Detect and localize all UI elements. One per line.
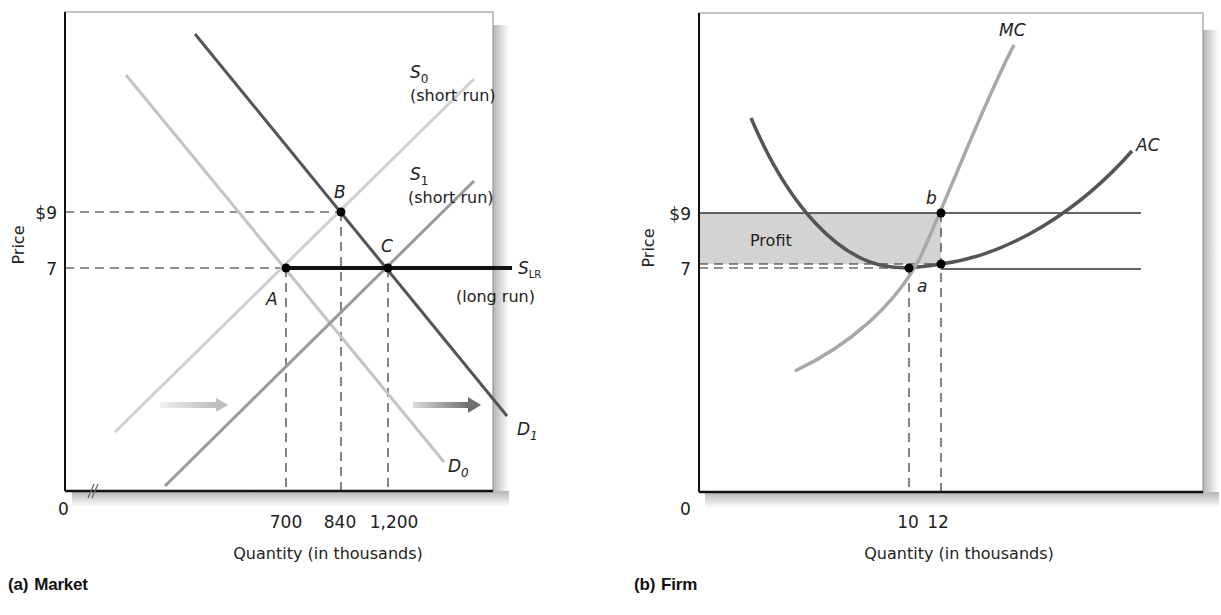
panel-a-caption: (a)Market <box>8 575 88 595</box>
slr-label: SLR <box>518 258 541 280</box>
x-tick-10: 10 <box>897 512 919 532</box>
x-axis-title: Quantity (in thousands) <box>233 544 423 563</box>
y-tick-7: 7 <box>46 259 57 279</box>
point-b-dot <box>337 208 346 217</box>
frame-shadow-bottom <box>705 492 1219 508</box>
point-c-dot <box>384 264 393 273</box>
y-tick-9: $9 <box>669 204 691 224</box>
s1-note: (short run) <box>408 188 494 207</box>
x-axis-title: Quantity (in thousands) <box>864 544 1054 563</box>
panel-a-tag: (a) <box>8 575 28 594</box>
point-a-dot <box>905 264 914 273</box>
point-b-dot <box>937 209 946 218</box>
panel-b-title: Firm <box>661 575 697 594</box>
frame-shadow-right <box>1203 30 1219 508</box>
x-tick-12: 12 <box>927 512 949 532</box>
point-a-label: a <box>917 276 927 296</box>
point-b-label: b <box>926 188 937 208</box>
d1-label: D1 <box>517 419 538 443</box>
y-axis-title: Price <box>639 228 658 267</box>
slr-note: (long run) <box>456 287 535 306</box>
point-a-dot <box>282 264 291 273</box>
profit-label: Profit <box>750 231 792 250</box>
origin-label: 0 <box>680 499 691 519</box>
x-tick-700: 700 <box>270 512 302 532</box>
mc-label: MC <box>999 20 1026 40</box>
panel-a-title: Market <box>34 575 88 594</box>
panel-b-caption: (b)Firm <box>634 575 697 595</box>
frame-shadow-bottom <box>72 491 509 507</box>
point-a-label: A <box>265 289 278 309</box>
ac-at-q12-dot <box>937 260 946 269</box>
origin-label: 0 <box>58 499 69 519</box>
y-tick-7: 7 <box>680 259 691 279</box>
x-tick-1200: 1,200 <box>370 512 419 532</box>
profit-region <box>700 213 941 264</box>
x-tick-840: 840 <box>324 512 356 532</box>
panel-b-tag: (b) <box>634 575 655 594</box>
market-chart: A B C S0 (short run) S1 (short run) SLR … <box>0 0 610 615</box>
s0-note: (short run) <box>410 86 496 105</box>
point-c-label: C <box>381 236 393 256</box>
firm-chart: Profit a b MC AC $9 7 0 10 12 Quantity (… <box>610 0 1221 615</box>
ac-label: AC <box>1135 135 1160 155</box>
y-axis-title: Price <box>9 225 28 264</box>
point-b-label: B <box>334 182 346 202</box>
y-tick-9: $9 <box>35 203 57 223</box>
